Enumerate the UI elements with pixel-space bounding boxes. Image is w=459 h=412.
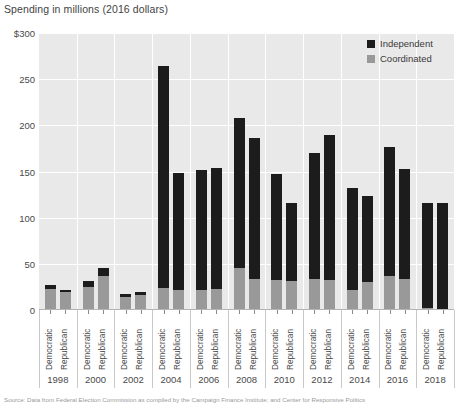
bar-segment-independent [286, 203, 297, 281]
bar-segment-independent [324, 135, 335, 280]
year-label-2016: 2016 [379, 374, 417, 385]
bar-segment-independent [271, 174, 282, 279]
bar-segment-independent [399, 169, 410, 279]
year-label-2000: 2000 [77, 374, 115, 385]
bar-series-container [39, 33, 454, 310]
year-label-2008: 2008 [228, 374, 266, 385]
legend-label-coordinated: Coordinated [380, 53, 432, 64]
bar-2012-republican [324, 135, 335, 310]
x-axis-group-separator [265, 310, 266, 372]
x-label-republican: Republican [324, 329, 333, 370]
bar-segment-independent [98, 268, 109, 275]
year-group-separator [454, 372, 455, 388]
x-axis-tick [216, 310, 217, 314]
x-axis-tick [254, 310, 255, 314]
bar-2008-democratic [234, 118, 245, 310]
x-axis-group-separator [303, 310, 304, 372]
x-axis-group-separator [228, 310, 229, 372]
bar-2010-republican [286, 203, 297, 310]
bar-segment-coordinated [399, 279, 410, 310]
x-label-democratic: Democratic [271, 329, 280, 370]
bar-2002-democratic [120, 294, 131, 310]
bar-segment-coordinated [98, 276, 109, 310]
chart-axis-title: Spending in millions (2016 dollars) [4, 3, 168, 15]
year-label-2002: 2002 [114, 374, 152, 385]
x-label-democratic: Democratic [384, 329, 393, 370]
bar-2002-republican [135, 292, 146, 310]
bar-2004-republican [173, 173, 184, 310]
bar-segment-independent [173, 173, 184, 289]
x-axis-group-separator [416, 310, 417, 372]
x-axis-tick [367, 310, 368, 314]
bar-segment-coordinated [83, 287, 94, 310]
x-axis-tick [405, 310, 406, 314]
x-label-republican: Republican [135, 329, 144, 370]
bar-1998-democratic [45, 285, 56, 310]
bar-segment-coordinated [196, 290, 207, 310]
plot-area [39, 33, 454, 310]
x-axis-group-separator [341, 310, 342, 372]
bar-segment-coordinated [384, 276, 395, 310]
bar-2014-democratic [347, 188, 358, 310]
x-axis-tick [428, 310, 429, 314]
x-label-republican: Republican [173, 329, 182, 370]
legend-item-independent: Independent [367, 38, 433, 49]
bar-2016-republican [399, 169, 410, 310]
y-tick-label: 200 [19, 120, 35, 131]
x-label-republican: Republican [399, 329, 408, 370]
x-axis-party-labels: DemocraticRepublicanDemocraticRepublican… [39, 310, 454, 372]
x-axis-group-separator [114, 310, 115, 372]
bar-2006-republican [211, 168, 222, 310]
x-axis-tick [390, 310, 391, 314]
bar-segment-independent [234, 118, 245, 269]
x-label-republican: Republican [98, 329, 107, 370]
x-label-republican: Republican [211, 329, 220, 370]
bar-segment-coordinated [158, 288, 169, 310]
bar-2014-republican [362, 196, 373, 310]
bar-segment-coordinated [234, 268, 245, 310]
x-axis-tick [103, 310, 104, 314]
bar-2016-democratic [384, 147, 395, 310]
x-axis-tick [314, 310, 315, 314]
x-axis-tick [126, 310, 127, 314]
x-axis-tick [239, 310, 240, 314]
y-tick-label: 50 [24, 258, 35, 269]
x-label-republican: Republican [249, 329, 258, 370]
bar-segment-independent [362, 196, 373, 283]
legend-label-independent: Independent [380, 38, 433, 49]
x-axis-group-separator [152, 310, 153, 372]
bar-segment-coordinated [271, 280, 282, 310]
bar-segment-coordinated [324, 280, 335, 310]
x-axis-tick [50, 310, 51, 314]
x-axis-tick [141, 310, 142, 314]
x-label-democratic: Democratic [45, 329, 54, 370]
chart-legend: Independent Coordinated [367, 38, 433, 68]
bar-segment-independent [158, 66, 169, 288]
x-label-republican: Republican [437, 329, 446, 370]
x-axis-year-labels: 1998200020022004200620082010201220142016… [39, 374, 454, 392]
bar-segment-independent [422, 203, 433, 308]
bar-segment-coordinated [173, 290, 184, 310]
year-label-2014: 2014 [341, 374, 379, 385]
bar-2018-republican [437, 203, 448, 310]
y-axis-labels: $300250200150100500 [0, 33, 35, 310]
year-label-2012: 2012 [303, 374, 341, 385]
x-axis-tick [201, 310, 202, 314]
x-axis-group-separator [454, 310, 455, 372]
bar-segment-coordinated [286, 281, 297, 310]
x-label-democratic: Democratic [120, 329, 129, 370]
y-tick-label: 150 [19, 166, 35, 177]
x-label-republican: Republican [362, 329, 371, 370]
x-axis-tick [292, 310, 293, 314]
x-label-democratic: Democratic [422, 329, 431, 370]
x-axis-group-separator [39, 310, 40, 372]
bar-segment-coordinated [347, 290, 358, 310]
x-label-democratic: Democratic [234, 329, 243, 370]
bar-2000-democratic [83, 281, 94, 310]
x-label-democratic: Democratic [158, 329, 167, 370]
bar-1998-republican [60, 290, 71, 310]
bar-segment-independent [309, 153, 320, 279]
bar-2012-democratic [309, 153, 320, 310]
legend-item-coordinated: Coordinated [367, 53, 433, 64]
y-tick-label: $300 [14, 28, 35, 39]
